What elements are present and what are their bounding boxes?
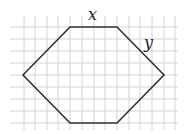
label-x: x (88, 5, 97, 24)
label-y: y (143, 33, 154, 52)
hexagon-diagram: x y (0, 0, 184, 134)
